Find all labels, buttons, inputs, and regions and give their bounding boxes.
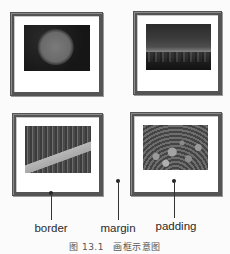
picture-frame-1 [10, 12, 103, 96]
photo-dandelion [24, 25, 90, 71]
picture-frame-3 [12, 113, 103, 196]
border-pointer-line [51, 193, 52, 220]
picture-frame-2 [133, 11, 222, 95]
picture-frame-4 [130, 112, 222, 196]
photo-forest [146, 24, 211, 70]
photo-garden-bridge [25, 126, 91, 173]
border-label: border [34, 222, 67, 234]
padding-label: padding [156, 220, 197, 232]
margin-label: margin [100, 222, 135, 234]
margin-pointer-line [118, 181, 119, 220]
photo-flower-field [143, 125, 208, 170]
padding-pointer-line [174, 181, 175, 218]
figure-caption: 图 13.1 画框示意图 [0, 240, 230, 253]
